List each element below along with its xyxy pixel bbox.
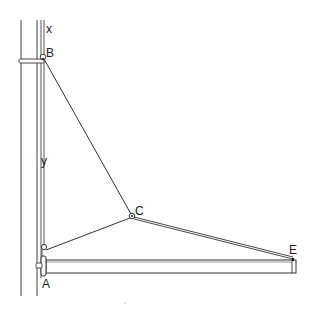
label-e: E [289,243,297,257]
rod-bc [44,59,131,214]
label-y: y [41,154,47,168]
joint-c [129,213,135,219]
label-b: B [46,46,54,60]
stray-dot [124,302,125,303]
clamp-b [19,54,46,63]
rod-ce [134,217,293,259]
rod-ac [46,218,130,250]
label-c: C [135,204,144,218]
label-x: x [46,22,52,36]
ring-a-upper [41,244,46,256]
bracket-diagram: x B y C E A [0,0,312,312]
beam-ae [46,258,296,273]
label-a: A [42,277,50,291]
